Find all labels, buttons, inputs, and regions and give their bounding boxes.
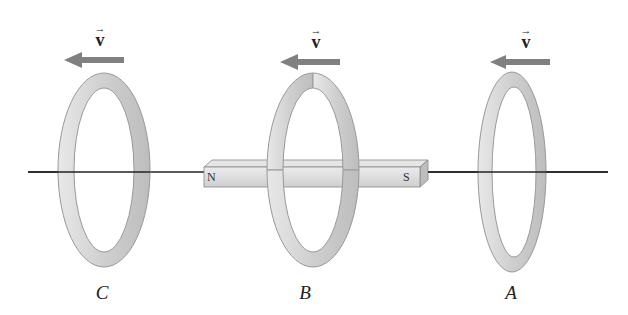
ring-label-a: A [505,282,517,304]
velocity-label-b: →v [312,32,321,53]
arrow-left-icon [490,55,550,69]
velocity-arrows [64,52,550,70]
bar-magnet [204,160,428,187]
ring-label-c: C [96,282,109,304]
ring-c [58,73,150,267]
arrow-left-icon [64,52,124,68]
ring-label-b: B [299,282,311,304]
velocity-label-c: →v [96,30,105,51]
south-pole-label: S [403,170,410,185]
arrow-left-icon [280,54,340,70]
velocity-label-a: →v [522,32,531,53]
north-pole-label: N [207,170,216,185]
